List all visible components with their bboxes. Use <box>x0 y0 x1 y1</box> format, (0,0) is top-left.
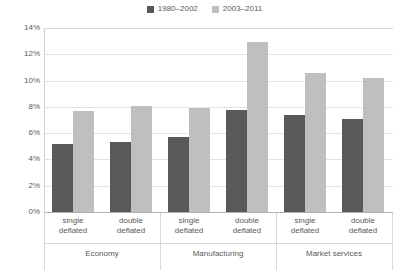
x-axis-group: singledeflateddoubledeflatedEconomy <box>44 213 160 270</box>
x-axis-sublabel: singledeflated <box>44 213 102 243</box>
x-axis-sublabel: doubledeflated <box>102 213 160 243</box>
x-axis-group-label: Market services <box>276 244 392 259</box>
bar <box>226 110 247 213</box>
bar <box>247 42 268 212</box>
y-tick-label: 2% <box>2 182 40 190</box>
legend-label-1980-2002: 1980–2002 <box>158 5 198 13</box>
bar <box>52 144 73 212</box>
x-axis: singledeflateddoubledeflatedEconomysingl… <box>44 213 392 270</box>
y-tick-label: 0% <box>2 208 40 216</box>
bar <box>73 111 94 212</box>
x-axis-sublabel-line: deflated <box>160 226 218 236</box>
bar <box>305 73 326 212</box>
bar <box>131 106 152 212</box>
x-axis-sublabel-line: double <box>102 216 160 226</box>
x-axis-group-separator <box>44 213 45 270</box>
bar <box>189 108 210 212</box>
x-axis-sublabel-line: double <box>218 216 276 226</box>
x-axis-sublabel: singledeflated <box>276 213 334 243</box>
x-axis-group-label: Manufacturing <box>160 244 276 259</box>
y-tick-label: 8% <box>2 103 40 111</box>
x-axis-group-separator <box>276 213 277 270</box>
y-tick-label: 4% <box>2 155 40 163</box>
x-axis-sublabel-line: deflated <box>102 226 160 236</box>
x-axis-sublabel-row: singledeflateddoubledeflated <box>276 213 392 243</box>
x-axis-sublabel-line: deflated <box>276 226 334 236</box>
x-axis-group: singledeflateddoubledeflatedMarket servi… <box>276 213 392 270</box>
x-axis-sublabel-line: single <box>276 216 334 226</box>
legend-entry-1980-2002: 1980–2002 <box>147 5 198 13</box>
bars-layer <box>44 28 392 212</box>
x-axis-sublabel-row: singledeflateddoubledeflated <box>160 213 276 243</box>
x-axis-group: singledeflateddoubledeflatedManufacturin… <box>160 213 276 270</box>
x-axis-group-label: Economy <box>44 244 160 259</box>
x-axis-sublabel-line: deflated <box>44 226 102 236</box>
bar <box>284 115 305 212</box>
legend-swatch-2003-2011-icon <box>212 6 219 13</box>
x-axis-sublabel-line: single <box>44 216 102 226</box>
y-tick-label: 6% <box>2 129 40 137</box>
bar-group <box>160 28 276 212</box>
legend-swatch-1980-2002-icon <box>147 6 154 13</box>
x-axis-sublabel-line: deflated <box>334 226 392 236</box>
x-axis-sublabel: singledeflated <box>160 213 218 243</box>
bar-group <box>44 28 160 212</box>
x-axis-group-separator <box>160 213 161 270</box>
x-axis-sublabel-row: singledeflateddoubledeflated <box>44 213 160 243</box>
bar-chart: 1980–2002 2003–2011 14%12%10%8%6%4%2%0% … <box>0 0 409 270</box>
y-tick-label: 10% <box>2 77 40 85</box>
bar-group <box>276 28 392 212</box>
x-axis-group-separator <box>392 213 393 270</box>
y-tick-label: 12% <box>2 50 40 58</box>
x-axis-sublabel-line: single <box>160 216 218 226</box>
legend-label-2003-2011: 2003–2011 <box>223 5 262 13</box>
chart-legend: 1980–2002 2003–2011 <box>0 2 409 16</box>
x-axis-sublabel: doubledeflated <box>334 213 392 243</box>
x-axis-sublabel: doubledeflated <box>218 213 276 243</box>
bar <box>168 137 189 212</box>
x-axis-sublabel-line: double <box>334 216 392 226</box>
legend-entry-2003-2011: 2003–2011 <box>212 5 262 13</box>
x-axis-sublabel-line: deflated <box>218 226 276 236</box>
y-tick-label: 14% <box>2 24 40 32</box>
bar <box>110 142 131 212</box>
bar <box>363 78 384 212</box>
bar <box>342 119 363 212</box>
y-axis: 14%12%10%8%6%4%2%0% <box>0 0 40 270</box>
